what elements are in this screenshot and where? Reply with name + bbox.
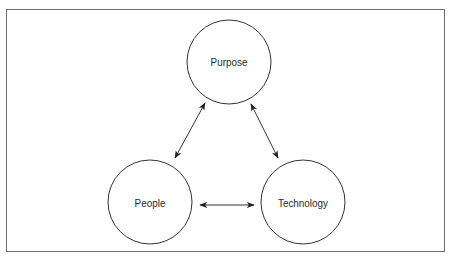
node-label-purpose: Purpose [211, 56, 248, 68]
double-arrow-purpose-people [175, 103, 205, 158]
node-label-technology: Technology [278, 197, 328, 209]
double-arrow-purpose-technology [251, 104, 278, 158]
node-label-people: People [135, 197, 166, 209]
diagram-graphics [0, 0, 453, 259]
nodes-layer [108, 20, 345, 244]
diagram-canvas: Purpose People Technology [0, 0, 453, 259]
